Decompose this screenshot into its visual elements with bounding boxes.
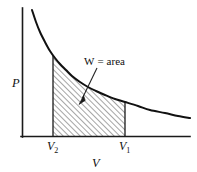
volume-2-tick-subscript: 2 (54, 146, 58, 155)
work-symbol: W (84, 55, 95, 67)
volume-axis-label: V (92, 156, 101, 170)
equals-sign: = (97, 55, 103, 67)
pressure-axis-label: P (11, 76, 20, 90)
pv-diagram-svg: P V V2 V1 W=area (0, 0, 197, 172)
volume-1-tick-label: V1 (119, 139, 130, 155)
area-word: area (107, 55, 125, 67)
work-area-annotation: W=area (84, 55, 125, 67)
volume-1-tick-subscript: 1 (126, 146, 130, 155)
volume-2-tick-label: V2 (47, 139, 58, 155)
pv-diagram-figure: P V V2 V1 W=area (0, 0, 197, 172)
